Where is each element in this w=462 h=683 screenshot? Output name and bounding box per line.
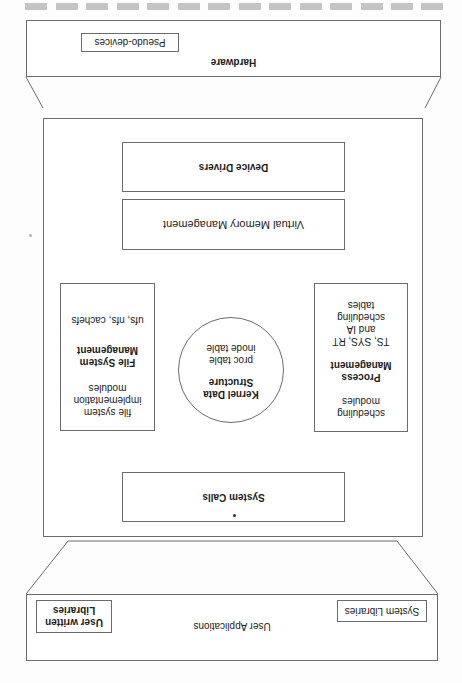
process-top-text: scheduling modules (315, 395, 407, 419)
file-system-title-line: File System (61, 356, 154, 368)
file-system-top-line: file system (61, 406, 154, 418)
hardware-box: Hardware Pseudo-devices (26, 20, 441, 77)
process-bottom-line: and IA (315, 323, 407, 335)
system-libraries-label: System Libraries (338, 606, 426, 617)
pseudo-devices-label: Pseudo-devices (82, 37, 178, 48)
hardware-label: Hardware (27, 57, 440, 68)
system-calls-dot (233, 514, 236, 517)
hardware-connector-left (425, 77, 441, 108)
user-libraries-label: User written Libraries (37, 604, 111, 628)
kernel-data-item: proc table (179, 354, 283, 366)
kernel-data-title-line: Kernel Data (179, 388, 283, 400)
system-libraries-box: System Libraries (337, 600, 427, 622)
user-connector-right (26, 541, 68, 594)
user-applications-box: User Applications System Libraries User … (26, 594, 438, 661)
process-top-line: scheduling (315, 407, 407, 419)
device-drivers-label: Device Drivers (123, 162, 344, 173)
virtual-memory-box: Virtual Memory Management (122, 199, 345, 250)
process-bottom-text: TS, SYS, RT and IA scheduling tables (315, 299, 407, 347)
device-drivers-box: Device Drivers (122, 142, 345, 192)
kernel-data-circle: Kernel Data Structure proc table inode t… (178, 317, 284, 423)
system-calls-label: System Calls (123, 492, 344, 503)
file-system-top-text: file system implementation modules (61, 382, 154, 418)
file-system-top-line: modules (61, 382, 154, 394)
file-system-top-line: implementation (61, 394, 154, 406)
file-system-title-line: Management (61, 344, 154, 356)
process-title-line: Management (315, 359, 407, 371)
process-bottom-line: scheduling (315, 311, 407, 323)
user-libraries-line: User written (37, 616, 111, 628)
user-libraries-line: Libraries (37, 604, 111, 616)
file-system-bottom-text: ufs, nfs, cachefs (61, 314, 154, 326)
user-connector-left (397, 541, 438, 594)
process-title-line: Process (315, 371, 407, 383)
process-bottom-line: tables (315, 299, 407, 311)
system-calls-box: System Calls (122, 472, 345, 522)
pseudo-devices-box: Pseudo-devices (81, 33, 179, 52)
scan-speck (29, 234, 32, 237)
virtual-memory-label: Virtual Memory Management (123, 219, 344, 231)
kernel-data-title-line: Structure (179, 376, 283, 388)
kernel-data-title: Kernel Data Structure (179, 376, 283, 400)
process-title: Process Management (315, 359, 407, 383)
process-top-line: modules (315, 395, 407, 407)
user-libraries-box: User written Libraries (36, 600, 112, 633)
file-system-box: file system implementation modules File … (60, 283, 155, 431)
file-system-title: File System Management (61, 344, 154, 368)
process-bottom-line: TS, SYS, RT (315, 335, 407, 347)
process-management-box: scheduling modules Process Management TS… (314, 283, 408, 432)
diagram-canvas: Hardware Pseudo-devices Device Drivers V… (0, 0, 462, 683)
hardware-connector-right (26, 77, 43, 108)
kernel-data-item: inode table (179, 342, 283, 354)
kernel-data-items: proc table inode table (179, 342, 283, 366)
